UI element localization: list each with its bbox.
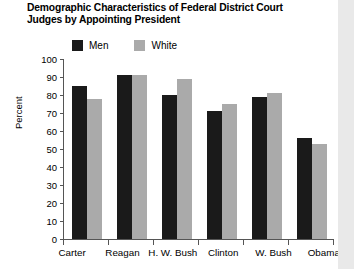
bar-white-reagan <box>132 75 147 239</box>
y-axis-title: Percent <box>13 96 24 129</box>
chart-figure: Demographic Characteristics of Federal D… <box>0 0 354 269</box>
x-axis-label: Reagan <box>97 246 147 262</box>
bar-group <box>154 59 199 239</box>
legend-label-white: White <box>151 40 177 51</box>
y-axis-tick-label: 80 <box>35 90 57 101</box>
x-axis-tick <box>243 240 244 245</box>
x-axis-label: Clinton <box>198 246 248 262</box>
x-axis-tick <box>153 240 154 245</box>
x-axis-tick <box>108 240 109 245</box>
bar-group <box>244 59 289 239</box>
legend-swatch-men <box>72 40 83 51</box>
x-axis-ticks <box>63 240 333 245</box>
y-axis-tick-label: 50 <box>35 144 57 155</box>
bar-men-clinton <box>207 111 222 239</box>
legend-label-men: Men <box>89 40 108 51</box>
bar-group <box>289 59 334 239</box>
bar-white-h-w-bush <box>177 79 192 239</box>
bar-white-clinton <box>222 104 237 239</box>
legend-item-white: White <box>134 40 177 51</box>
y-axis-tick-label: 40 <box>35 162 57 173</box>
x-axis-label: Carter <box>47 246 97 262</box>
bar-white-w-bush <box>267 93 282 239</box>
y-axis-tick-label: 90 <box>35 72 57 83</box>
y-axis-tick-label: 20 <box>35 198 57 209</box>
bar-group <box>109 59 154 239</box>
bar-men-carter <box>72 86 87 239</box>
chart-title: Demographic Characteristics of Federal D… <box>27 2 347 27</box>
y-axis-tick-label: 0 <box>35 234 57 245</box>
x-axis-label: W. Bush <box>248 246 298 262</box>
x-axis-tick <box>333 240 334 245</box>
x-axis-tick <box>288 240 289 245</box>
x-axis-tick <box>198 240 199 245</box>
x-axis-labels: CarterReaganH. W. BushClintonW. BushObam… <box>47 246 349 262</box>
bar-men-reagan <box>117 75 132 239</box>
y-axis-tick-label: 60 <box>35 126 57 137</box>
y-axis-tick-label: 30 <box>35 180 57 191</box>
bar-group <box>64 59 109 239</box>
bar-men-w-bush <box>252 97 267 239</box>
x-axis-tick <box>63 240 64 245</box>
y-axis-tick-label: 100 <box>35 54 57 65</box>
legend-swatch-white <box>134 40 145 51</box>
bar-men-obama <box>297 138 312 239</box>
bar-men-h-w-bush <box>162 95 177 239</box>
bar-group <box>199 59 244 239</box>
bar-white-obama <box>312 144 327 239</box>
bar-white-carter <box>87 99 102 239</box>
y-axis-tick-label: 70 <box>35 108 57 119</box>
page-edge-strip <box>338 0 354 269</box>
bar-series-container <box>64 59 334 239</box>
x-axis-label: H. W. Bush <box>148 246 198 262</box>
plot-area: 1009080706050403020100 <box>63 59 334 240</box>
chart-legend: Men White <box>72 38 177 52</box>
y-axis-tick-label: 10 <box>35 216 57 227</box>
legend-item-men: Men <box>72 40 108 51</box>
